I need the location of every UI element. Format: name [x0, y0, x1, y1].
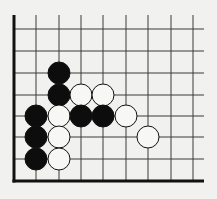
- white-stone: [48, 126, 70, 148]
- black-stone: [48, 62, 70, 84]
- black-stone: [92, 105, 114, 127]
- white-stone: [115, 105, 137, 127]
- black-stone: [25, 105, 47, 127]
- black-stone: [48, 84, 70, 106]
- white-stone: [92, 84, 114, 106]
- go-board: [0, 0, 217, 199]
- white-stone: [70, 84, 92, 106]
- white-stone: [48, 148, 70, 170]
- white-stone: [48, 105, 70, 127]
- black-stone: [25, 148, 47, 170]
- black-stone: [25, 126, 47, 148]
- black-stone: [70, 105, 92, 127]
- white-stone: [137, 126, 159, 148]
